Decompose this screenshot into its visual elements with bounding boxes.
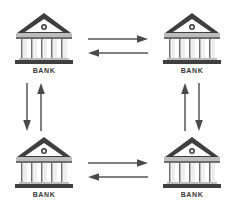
bank-label: BANK [13, 191, 75, 198]
bank-node-top-right[interactable]: BANK [161, 10, 223, 80]
bank-node-bottom-left[interactable]: BANK [13, 134, 75, 204]
arrow-down-icon [195, 83, 203, 131]
connector-top-horizontal [88, 34, 148, 60]
arrow-left-icon [88, 173, 148, 181]
bank-building-icon [13, 134, 75, 189]
bank-building-icon [161, 10, 223, 65]
bank-label: BANK [13, 67, 75, 74]
arrow-up-icon [181, 83, 189, 131]
bank-building-icon [13, 10, 75, 65]
arrow-down-icon [23, 83, 31, 131]
connector-right-vertical [180, 83, 206, 131]
connector-bottom-horizontal [88, 158, 148, 184]
connector-left-vertical [22, 83, 48, 131]
arrow-right-icon [88, 159, 148, 167]
bank-label: BANK [161, 191, 223, 198]
arrow-left-icon [88, 49, 148, 57]
bank-node-top-left[interactable]: BANK [13, 10, 75, 80]
arrow-up-icon [37, 83, 45, 131]
bank-network-diagram: BANK [0, 0, 235, 211]
bank-building-icon [161, 134, 223, 189]
arrow-right-icon [88, 35, 148, 43]
bank-label: BANK [161, 67, 223, 74]
bank-node-bottom-right[interactable]: BANK [161, 134, 223, 204]
